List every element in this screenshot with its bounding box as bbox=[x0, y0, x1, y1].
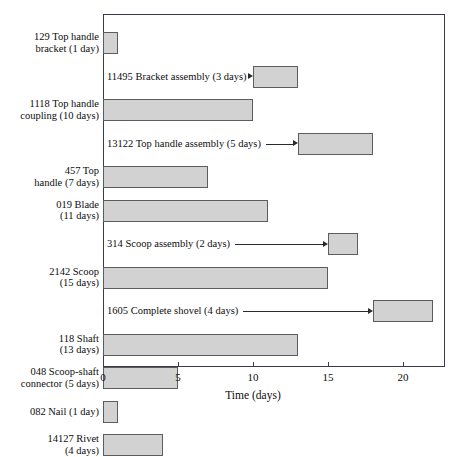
x-tick-label-10: 10 bbox=[238, 371, 268, 383]
x-tick-0 bbox=[103, 362, 104, 367]
leader-line-1605 bbox=[243, 311, 368, 312]
gantt-bar-11495 bbox=[253, 66, 298, 88]
x-tick-label-20: 20 bbox=[388, 371, 418, 383]
gantt-bar-13122 bbox=[298, 133, 373, 155]
gantt-bar-019 bbox=[103, 200, 268, 222]
arrow-head-314 bbox=[323, 241, 328, 247]
gantt-bar-1605 bbox=[373, 300, 433, 322]
gantt-bar-2142 bbox=[103, 267, 328, 289]
row-label-118: 118 Shaft (13 days) bbox=[0, 333, 99, 356]
x-tick-10 bbox=[253, 362, 254, 367]
row-label-457: 457 Top handle (7 days) bbox=[0, 165, 99, 188]
x-tick-5 bbox=[178, 362, 179, 367]
x-tick-label-5: 5 bbox=[163, 371, 193, 383]
x-tick-20 bbox=[403, 362, 404, 367]
gantt-bar-314 bbox=[328, 233, 358, 255]
x-tick-label-15: 15 bbox=[313, 371, 343, 383]
annotation-label-13122: 13122 Top handle assembly (5 days) bbox=[107, 138, 261, 150]
gantt-bar-082 bbox=[103, 401, 118, 423]
gantt-bar-457 bbox=[103, 166, 208, 188]
annotation-label-11495: 11495 Bracket assembly (3 days) bbox=[107, 71, 247, 83]
gantt-bar-118 bbox=[103, 334, 298, 356]
row-label-082: 082 Nail (1 day) bbox=[0, 406, 99, 418]
row-label-14127: 14127 Rivet (4 days) bbox=[0, 433, 99, 456]
row-label-129: 129 Top handle bracket (1 day) bbox=[0, 31, 99, 54]
annotation-label-1605: 1605 Complete shovel (4 days) bbox=[107, 305, 238, 317]
arrow-head-1605 bbox=[368, 308, 373, 314]
x-tick-15 bbox=[328, 362, 329, 367]
gantt-bar-14127 bbox=[103, 434, 163, 456]
annotation-label-314: 314 Scoop assembly (2 days) bbox=[107, 238, 230, 250]
row-label-1118: 1118 Top handle coupling (10 days) bbox=[0, 98, 99, 121]
leader-line-314 bbox=[235, 244, 323, 245]
row-label-2142: 2142 Scoop (15 days) bbox=[0, 266, 99, 289]
x-axis-title: Time (days) bbox=[193, 389, 313, 402]
arrow-head-13122 bbox=[293, 140, 298, 146]
row-label-019: 019 Blade (11 days) bbox=[0, 199, 99, 222]
row-label-048: 048 Scoop-shaft connector (5 days) bbox=[0, 366, 99, 389]
x-tick-label-0: 0 bbox=[88, 371, 118, 383]
arrow-head-11495 bbox=[248, 73, 253, 79]
leader-line-13122 bbox=[266, 144, 293, 145]
gantt-bar-1118 bbox=[103, 99, 253, 121]
gantt-bar-129 bbox=[103, 32, 118, 54]
